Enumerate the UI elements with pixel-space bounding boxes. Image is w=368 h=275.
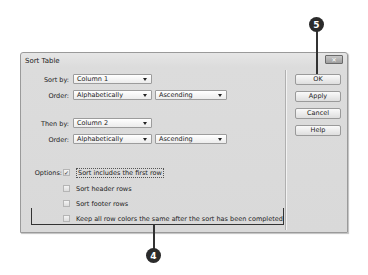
chevron-down-icon [143, 122, 147, 125]
chevron-down-icon [218, 94, 222, 97]
then-by-value: Column 2 [77, 119, 108, 127]
vertical-divider [285, 70, 287, 230]
sort-by-label: Sort by: [21, 76, 69, 84]
order-direction-select-2[interactable]: Ascending [155, 134, 227, 144]
sort-by-select[interactable]: Column 1 [73, 74, 152, 84]
checkbox-checked[interactable]: ✓ [63, 169, 70, 176]
chevron-down-icon [143, 138, 147, 141]
order-type-select-1[interactable]: Alphabetically [73, 90, 152, 100]
chevron-down-icon [218, 138, 222, 141]
sort-table-dialog: Sort Table ✕ Sort by: Column 1 Order: Al… [20, 52, 348, 233]
callout-badge-5: 5 [309, 17, 324, 32]
option-sort-includes-first-row[interactable]: ✓ Sort includes the first row [63, 168, 164, 177]
close-icon: ✕ [331, 57, 336, 63]
option-label: Sort footer rows [76, 200, 128, 208]
order-direction-select-1[interactable]: Ascending [155, 90, 227, 100]
option-label: Sort includes the first row [76, 168, 164, 178]
options-bracket [31, 208, 284, 225]
apply-button[interactable]: Apply [295, 91, 341, 102]
then-by-label: Then by: [21, 120, 69, 128]
order-type-value-1: Alphabetically [77, 91, 123, 99]
sort-by-value: Column 1 [77, 75, 108, 83]
cancel-button[interactable]: Cancel [295, 108, 341, 119]
order-type-select-2[interactable]: Alphabetically [73, 134, 152, 144]
dialog-title: Sort Table [25, 57, 60, 65]
option-sort-header-rows[interactable]: Sort header rows [63, 184, 132, 193]
checkbox[interactable] [63, 200, 70, 207]
order-label-1: Order: [21, 92, 69, 100]
chevron-down-icon [143, 78, 147, 81]
order-direction-value-1: Ascending [159, 91, 193, 99]
option-label: Sort header rows [76, 185, 132, 193]
chevron-down-icon [143, 94, 147, 97]
callout-line-4 [153, 224, 155, 250]
checkbox[interactable] [63, 185, 70, 192]
options-label: Options: [14, 169, 62, 177]
callout-badge-4: 4 [146, 248, 161, 263]
order-label-2: Order: [21, 136, 69, 144]
option-sort-footer-rows[interactable]: Sort footer rows [63, 199, 128, 208]
order-direction-value-2: Ascending [159, 135, 193, 143]
close-button[interactable]: ✕ [325, 55, 343, 64]
ok-button[interactable]: OK [295, 74, 341, 85]
help-button[interactable]: Help [295, 125, 341, 136]
then-by-select[interactable]: Column 2 [73, 118, 152, 128]
callout-line-5 [316, 30, 318, 74]
order-type-value-2: Alphabetically [77, 135, 123, 143]
